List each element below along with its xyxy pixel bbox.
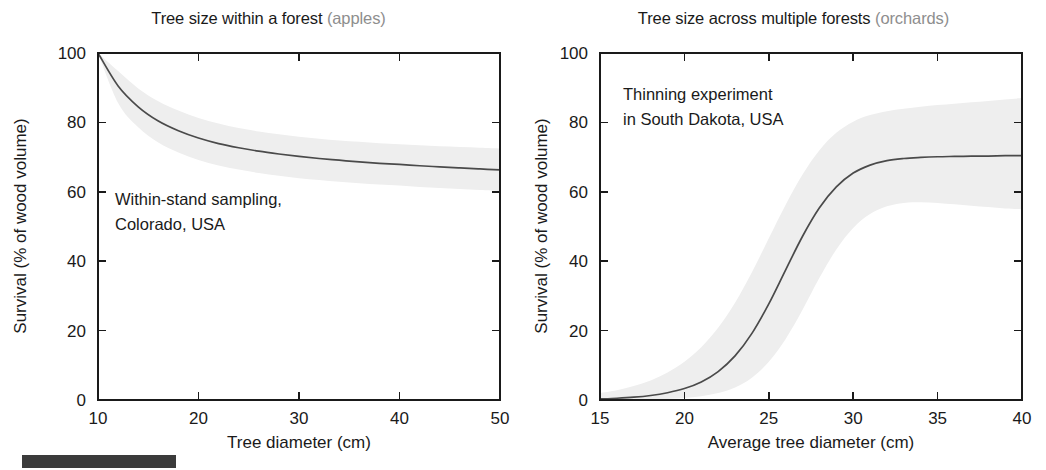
x-tick-label: 35 bbox=[928, 409, 947, 428]
x-tick-label: 25 bbox=[759, 409, 778, 428]
chart-panel-left: Tree size within a forest (apples) 10203… bbox=[0, 0, 523, 470]
y-tick-label: 0 bbox=[579, 391, 588, 410]
x-tick-label: 30 bbox=[844, 409, 863, 428]
x-tick-label: 10 bbox=[89, 409, 108, 428]
right-y-axis-title: Survival (% of wood volume) bbox=[532, 118, 551, 333]
x-tick-label: 40 bbox=[390, 409, 409, 428]
x-tick-label: 20 bbox=[675, 409, 694, 428]
x-tick-label: 30 bbox=[290, 409, 309, 428]
left-annotation-line1: Within-stand sampling, bbox=[115, 190, 282, 208]
right-confidence-band bbox=[600, 98, 1022, 400]
x-tick-label: 50 bbox=[491, 409, 510, 428]
y-tick-label: 80 bbox=[67, 113, 86, 132]
x-tick-label: 20 bbox=[189, 409, 208, 428]
left-y-axis-title: Survival (% of wood volume) bbox=[11, 118, 30, 333]
x-tick-label: 15 bbox=[591, 409, 610, 428]
y-tick-label: 100 bbox=[58, 44, 86, 63]
y-tick-label: 20 bbox=[67, 322, 86, 341]
left-x-axis-title: Tree diameter (cm) bbox=[227, 433, 371, 452]
left-annotation-line2: Colorado, USA bbox=[115, 215, 225, 233]
y-tick-label: 80 bbox=[569, 113, 588, 132]
y-tick-label: 40 bbox=[569, 252, 588, 271]
figure-container: Tree size within a forest (apples) 10203… bbox=[0, 0, 1046, 470]
chart-panel-right: Tree size across multiple forests (orcha… bbox=[523, 0, 1046, 470]
right-x-axis-title: Average tree diameter (cm) bbox=[708, 433, 915, 452]
footer-bar bbox=[22, 455, 176, 468]
left-confidence-band bbox=[98, 53, 500, 191]
y-tick-label: 20 bbox=[569, 322, 588, 341]
y-tick-label: 100 bbox=[560, 44, 588, 63]
y-tick-label: 0 bbox=[77, 391, 86, 410]
y-tick-label: 60 bbox=[67, 183, 86, 202]
right-annotation-line2: in South Dakota, USA bbox=[623, 110, 784, 128]
panel-right-plot: 152025303540020406080100 Average tree di… bbox=[523, 0, 1046, 470]
x-tick-label: 40 bbox=[1013, 409, 1032, 428]
panel-left-plot: 1020304050020406080100 Tree diameter (cm… bbox=[0, 0, 523, 470]
y-tick-label: 60 bbox=[569, 183, 588, 202]
y-tick-label: 40 bbox=[67, 252, 86, 271]
right-annotation-line1: Thinning experiment bbox=[623, 85, 773, 103]
